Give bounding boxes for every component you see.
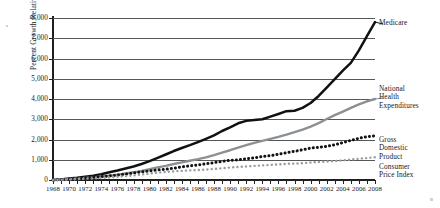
x-axis-tick bbox=[134, 180, 135, 184]
x-axis-tick bbox=[311, 180, 312, 184]
plot-area bbox=[53, 18, 375, 180]
x-axis-tick bbox=[230, 180, 231, 184]
x-axis-tick bbox=[327, 180, 328, 184]
x-axis-tick bbox=[335, 180, 336, 184]
x-axis-tick bbox=[286, 180, 287, 184]
x-axis-tick-label: 1994 bbox=[255, 185, 269, 192]
series-label-line: Price Index bbox=[379, 171, 414, 179]
x-axis-tick-label: 1996 bbox=[271, 185, 285, 192]
series-label-gross-domestic-product: GrossDomesticProduct bbox=[379, 136, 408, 161]
series-label-medicare: Medicare bbox=[379, 19, 407, 27]
x-axis-tick-label: 1990 bbox=[223, 185, 237, 192]
series-label-line: Expenditures bbox=[379, 102, 419, 110]
x-axis-tick-label: 1988 bbox=[207, 185, 221, 192]
x-axis-tick bbox=[351, 180, 352, 184]
series-label-consumer-price-index: ConsumerPrice Index bbox=[379, 163, 414, 180]
x-axis-tick bbox=[214, 180, 215, 184]
y-axis-tick-label: 3,000 bbox=[1, 115, 48, 123]
y-axis-tick-label: 7,000 bbox=[1, 34, 48, 42]
x-axis-tick bbox=[278, 180, 279, 184]
x-axis-tick-label: 2006 bbox=[352, 185, 366, 192]
x-axis-tick bbox=[262, 180, 263, 184]
x-axis-tick-label: 1980 bbox=[143, 185, 157, 192]
x-axis-tick-label: 1972 bbox=[78, 185, 92, 192]
x-axis-tick bbox=[158, 180, 159, 184]
scan-speck bbox=[6, 25, 8, 27]
y-axis-tick-label: 6,000 bbox=[1, 55, 48, 63]
x-axis-tick-label: 1970 bbox=[62, 185, 76, 192]
x-axis-tick-label: 1992 bbox=[239, 185, 253, 192]
x-axis-tick-label: 1998 bbox=[288, 185, 302, 192]
x-axis-tick bbox=[222, 180, 223, 184]
x-axis-tick bbox=[206, 180, 207, 184]
x-axis-tick bbox=[343, 180, 344, 184]
x-axis-tick bbox=[359, 180, 360, 184]
x-axis-tick bbox=[375, 180, 376, 184]
x-axis-tick-label: 2008 bbox=[368, 185, 382, 192]
x-axis-tick-label: 1984 bbox=[175, 185, 189, 192]
x-axis-tick bbox=[126, 180, 127, 184]
y-axis-tick-label: 1,000 bbox=[1, 156, 48, 164]
series-label-line: Medicare bbox=[379, 19, 407, 27]
x-axis-tick-label: 1976 bbox=[110, 185, 124, 192]
x-axis-tick-label: 1986 bbox=[191, 185, 205, 192]
x-axis-tick bbox=[367, 180, 368, 184]
x-axis-tick bbox=[303, 180, 304, 184]
y-axis-tick-label: 4,000 bbox=[1, 95, 48, 103]
x-axis-tick bbox=[77, 180, 78, 184]
x-axis-tick bbox=[319, 180, 320, 184]
x-axis-tick bbox=[270, 180, 271, 184]
x-axis-tick bbox=[117, 180, 118, 184]
x-axis-tick bbox=[238, 180, 239, 184]
x-axis-tick-label: 1968 bbox=[46, 185, 60, 192]
x-axis-tick-label: 1978 bbox=[127, 185, 141, 192]
chart-figure: Percent Growth Relative to 1968 01,0002,… bbox=[0, 0, 440, 208]
x-axis-tick-label: 1974 bbox=[94, 185, 108, 192]
x-axis-tick bbox=[142, 180, 143, 184]
x-axis-tick bbox=[166, 180, 167, 184]
x-axis-tick bbox=[93, 180, 94, 184]
x-axis-tick bbox=[150, 180, 151, 184]
y-axis-tick-label: 0 bbox=[1, 176, 48, 184]
y-axis-tick-label: 2,000 bbox=[1, 136, 48, 144]
x-axis-tick-label: 1982 bbox=[159, 185, 173, 192]
x-axis-tick bbox=[101, 180, 102, 184]
x-axis-tick bbox=[85, 180, 86, 184]
x-axis-tick bbox=[198, 180, 199, 184]
scan-speck bbox=[430, 198, 433, 201]
series-label-national-health-expenditures: NationalHealthExpenditures bbox=[379, 85, 419, 110]
x-axis-tick bbox=[254, 180, 255, 184]
x-axis-tick bbox=[182, 180, 183, 184]
x-axis-tick bbox=[246, 180, 247, 184]
x-axis-tick bbox=[295, 180, 296, 184]
x-axis-tick-label: 2000 bbox=[304, 185, 318, 192]
y-axis-tick-label: 8,000 bbox=[1, 14, 48, 22]
series-canvas bbox=[53, 18, 375, 180]
x-axis-tick bbox=[190, 180, 191, 184]
series-line-national-health-expenditures bbox=[53, 99, 375, 180]
x-axis-tick-label: 2002 bbox=[320, 185, 334, 192]
x-axis-tick bbox=[109, 180, 110, 184]
x-axis-tick-label: 2004 bbox=[336, 185, 350, 192]
x-axis-tick bbox=[174, 180, 175, 184]
series-label-line: Product bbox=[379, 153, 408, 161]
y-axis-tick-label: 5,000 bbox=[1, 75, 48, 83]
